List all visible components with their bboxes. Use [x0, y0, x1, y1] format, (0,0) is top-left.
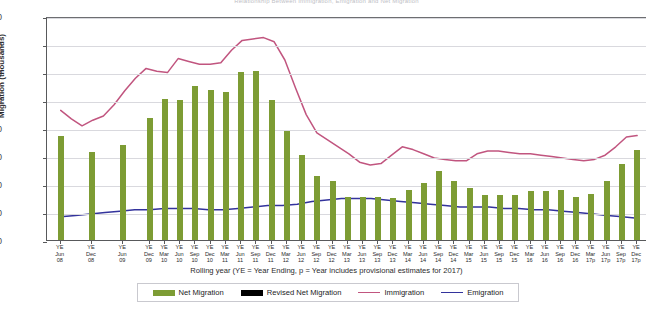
- y-axis-tick: [43, 130, 47, 131]
- y-axis-tick-label: 60: [0, 152, 2, 162]
- gridline: [47, 18, 646, 19]
- bar-net-migration: [284, 131, 290, 240]
- bar-net-migration: [162, 99, 168, 240]
- bar-net-migration: [390, 198, 396, 240]
- bar-net-migration: [253, 71, 259, 240]
- y-axis-tick-label: 20: [0, 208, 2, 218]
- bar-net-migration: [223, 92, 229, 240]
- bar-net-migration: [543, 191, 549, 240]
- legend-swatch-icon: [241, 290, 263, 296]
- plot-area: [46, 17, 646, 241]
- y-axis-tick: [43, 186, 47, 187]
- bar-net-migration: [604, 181, 610, 240]
- legend-item[interactable]: Revised Net Migration: [241, 288, 342, 297]
- gridline: [47, 186, 646, 187]
- bar-net-migration: [330, 181, 336, 240]
- y-axis-tick: [43, 74, 47, 75]
- y-axis-tick-label: 120: [0, 68, 2, 78]
- bar-net-migration: [467, 188, 473, 240]
- bar-net-migration: [299, 155, 305, 240]
- legend-item[interactable]: Emigration: [441, 288, 503, 297]
- bar-net-migration: [573, 197, 579, 240]
- bar-net-migration: [558, 190, 564, 240]
- bar-net-migration: [314, 176, 320, 240]
- bar-net-migration: [512, 195, 518, 240]
- bar-net-migration: [192, 86, 198, 240]
- bar-net-migration: [406, 190, 412, 240]
- legend-item[interactable]: Immigration: [358, 288, 424, 297]
- y-axis-tick: [43, 102, 47, 103]
- bar-net-migration: [89, 152, 95, 240]
- x-axis-tick-label: YE Dec 17p: [625, 244, 647, 264]
- x-axis-tick-label: YE Dec 08: [80, 244, 102, 264]
- legend-swatch-icon: [358, 292, 380, 293]
- bar-net-migration: [497, 195, 503, 240]
- bar-net-migration: [58, 136, 64, 240]
- legend-item[interactable]: Net Migration: [153, 288, 224, 297]
- gridline: [47, 130, 646, 131]
- bar-net-migration: [269, 100, 275, 240]
- legend-swatch-icon: [441, 292, 463, 293]
- bar-net-migration: [588, 194, 594, 240]
- bar-net-migration: [360, 197, 366, 240]
- migration-chart: Relationship Between Immigration, Emigra…: [0, 0, 653, 314]
- gridline: [47, 102, 646, 103]
- y-axis-tick: [43, 214, 47, 215]
- y-axis-tick-label: 40: [0, 180, 2, 190]
- bar-net-migration: [451, 181, 457, 240]
- y-axis-tick: [43, 46, 47, 47]
- bar-net-migration: [120, 145, 126, 240]
- y-axis-tick: [43, 242, 47, 243]
- gridline: [47, 46, 646, 47]
- bar-net-migration: [634, 150, 640, 240]
- chart-title: Relationship Between Immigration, Emigra…: [0, 0, 653, 7]
- legend-label: Revised Net Migration: [267, 288, 342, 297]
- x-axis-title: Rolling year (YE = Year Ending, p = Year…: [0, 266, 653, 275]
- y-axis-tick-label: 80: [0, 124, 2, 134]
- x-axis-tick-label: YE Jun 09: [111, 244, 133, 264]
- bar-net-migration: [177, 100, 183, 240]
- bar-net-migration: [208, 90, 214, 240]
- gridline: [47, 158, 646, 159]
- legend-label: Net Migration: [179, 288, 224, 297]
- bar-net-migration: [436, 171, 442, 240]
- bar-net-migration: [238, 72, 244, 240]
- bar-net-migration: [375, 197, 381, 240]
- bar-net-migration: [528, 191, 534, 240]
- legend-swatch-icon: [153, 290, 175, 296]
- bar-net-migration: [147, 118, 153, 240]
- y-axis-tick-label: 160: [0, 12, 2, 22]
- y-axis-tick: [43, 18, 47, 19]
- bar-net-migration: [421, 183, 427, 240]
- y-axis-tick-label: 0: [0, 236, 2, 246]
- chart-legend: Net MigrationRevised Net MigrationImmigr…: [137, 283, 519, 302]
- bar-net-migration: [482, 195, 488, 240]
- y-axis-tick-label: 140: [0, 40, 2, 50]
- legend-label: Immigration: [384, 288, 424, 297]
- gridline: [47, 74, 646, 75]
- y-axis-tick-label: 100: [0, 96, 2, 106]
- bar-net-migration: [619, 164, 625, 240]
- bar-net-migration: [345, 197, 351, 240]
- y-axis-tick: [43, 158, 47, 159]
- legend-label: Emigration: [467, 288, 503, 297]
- x-axis-tick-label: YE Jun 08: [49, 244, 71, 264]
